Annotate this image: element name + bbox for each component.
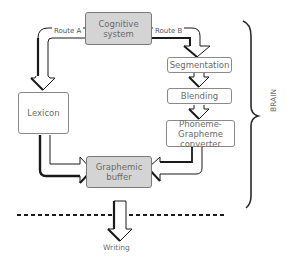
cognitive-system-label-line2: system <box>103 29 134 39</box>
writing-model-diagram: Route A Route B Cognitive system Lexicon… <box>0 0 289 258</box>
converter-label-line2: converter <box>180 139 221 149</box>
segmentation-label: Segmentation <box>170 60 230 70</box>
lexicon-to-buffer-arrow <box>40 135 92 183</box>
graphemic-buffer-label-line2: buffer <box>106 172 131 182</box>
cognitive-system-label-line1: Cognitive <box>98 19 138 29</box>
graphemic-buffer-label-line1: Graphemic <box>96 162 143 172</box>
route-a-label: Route A <box>52 27 83 35</box>
converter-label-line1: Phoneme-Grapheme <box>167 119 234 139</box>
phoneme-grapheme-converter-node: Phoneme-Grapheme converter <box>166 120 235 147</box>
route-b-label: Route B <box>153 27 184 35</box>
blending-node: Blending <box>167 88 232 104</box>
segmentation-node: Segmentation <box>167 57 232 73</box>
lexicon-label: Lexicon <box>27 108 59 118</box>
writing-label: Writing <box>103 243 130 252</box>
graphemic-buffer-node: Graphemic buffer <box>86 156 152 188</box>
brain-label: BRAIN <box>269 86 278 116</box>
route-a-arrow <box>31 28 86 90</box>
buffer-to-writing-arrow <box>108 201 132 241</box>
blending-to-converter-arrow <box>189 105 209 119</box>
brain-brace <box>243 21 258 208</box>
blending-label: Blending <box>181 91 218 101</box>
converter-to-buffer-arrow <box>148 147 202 181</box>
cognitive-system-node: Cognitive system <box>85 12 152 45</box>
lexicon-node: Lexicon <box>18 92 69 134</box>
segmentation-to-blending-arrow <box>189 73 209 87</box>
